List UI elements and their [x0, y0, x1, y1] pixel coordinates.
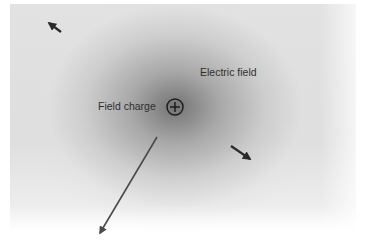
arrow-icon: [231, 146, 250, 159]
arrow-icon: [100, 137, 157, 233]
positive-charge-icon: [167, 99, 183, 115]
field-vector-upper-left: [49, 23, 61, 32]
field-vector-right: [231, 146, 250, 159]
field-charge-label: Field charge: [98, 100, 156, 112]
arrow-icon: [49, 23, 61, 32]
field-diagram-overlay: [0, 0, 371, 249]
field-vector-long-down-left: [100, 137, 157, 233]
electric-field-label: Electric field: [200, 66, 257, 78]
